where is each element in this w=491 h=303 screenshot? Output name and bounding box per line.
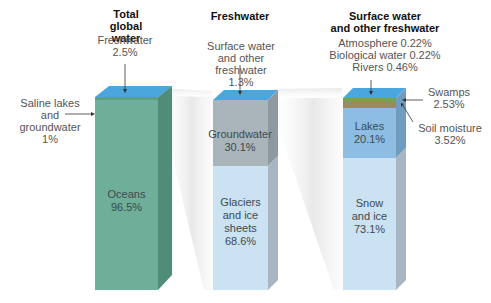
- segment-value: 20.1%: [343, 133, 396, 146]
- segment-glaciers-ice-sheets: Glaciers and ice sheets 68.6%: [213, 196, 268, 248]
- segment-label: Groundwater: [207, 128, 273, 141]
- label-text: groundwater: [14, 121, 86, 133]
- label-text: and other: [200, 52, 282, 64]
- segment-label: and ice: [213, 209, 268, 222]
- label-value: 2.5%: [95, 46, 155, 58]
- segment-snow-ice: Snow and ice 73.1%: [343, 197, 396, 236]
- segment-label: Glaciers: [213, 196, 268, 209]
- segment-value: 73.1%: [343, 223, 396, 236]
- label-saline-lakes-groundwater: Saline lakes and groundwater 1%: [14, 97, 86, 145]
- segment-lakes: Lakes 20.1%: [343, 120, 396, 146]
- segment-label: sheets: [213, 222, 268, 235]
- segment-label: Lakes: [343, 120, 396, 133]
- bar-surface-water: [343, 88, 406, 290]
- label-surface-water-share: Surface water and other freshwater 1.3%: [200, 40, 282, 88]
- label-value: 3.52%: [410, 134, 490, 146]
- title-line: and other freshwater: [320, 22, 450, 34]
- label-value: 1.3%: [200, 76, 282, 88]
- label-text: Swamps: [424, 86, 474, 98]
- segment-label: and ice: [343, 210, 396, 223]
- segment-label: Oceans: [95, 188, 158, 201]
- column-title-freshwater: Freshwater: [200, 10, 280, 22]
- label-freshwater-share: Freshwater 2.5%: [95, 34, 155, 58]
- title-line: Total: [96, 8, 156, 20]
- segment-value: 68.6%: [213, 235, 268, 248]
- label-rivers: Rivers 0.46%: [318, 61, 452, 73]
- label-text: Surface water: [200, 40, 282, 52]
- label-value: 2.53%: [424, 98, 474, 110]
- label-text: Saline lakes: [14, 97, 86, 109]
- title-line: Freshwater: [200, 10, 280, 22]
- label-atmosphere: Atmosphere 0.22%: [318, 37, 452, 49]
- bar-freshwater: [213, 90, 278, 290]
- label-swamps: Swamps 2.53%: [424, 86, 474, 110]
- segment-oceans: Oceans 96.5%: [95, 188, 158, 214]
- connector-beam-2-3: [268, 88, 344, 290]
- column-title-surface-water: Surface water and other freshwater: [320, 10, 450, 34]
- segment-label: Snow: [343, 197, 396, 210]
- label-biological-water: Biological water 0.22%: [318, 49, 452, 61]
- title-line: Surface water: [320, 10, 450, 22]
- segment-value: 96.5%: [95, 201, 158, 214]
- label-text: Soil moisture: [410, 122, 490, 134]
- label-text: Freshwater: [95, 34, 155, 46]
- segment-groundwater: Groundwater 30.1%: [207, 128, 273, 154]
- label-small-freshwater-stores: Atmosphere 0.22% Biological water 0.22% …: [318, 37, 452, 73]
- label-value: 1%: [14, 133, 86, 145]
- label-text: and: [14, 109, 86, 121]
- segment-value: 30.1%: [207, 141, 273, 154]
- label-text: freshwater: [200, 64, 282, 76]
- label-soil-moisture: Soil moisture 3.52%: [410, 122, 490, 146]
